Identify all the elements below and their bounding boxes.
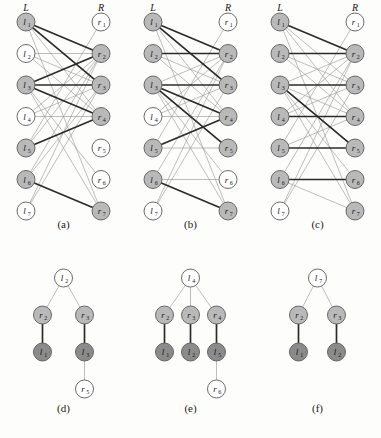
panel-a-node-l6[interactable]: l6 — [17, 171, 35, 189]
panel-b-node-r1[interactable]: r1 — [219, 13, 237, 31]
panel-d-node-r2-subscript: 2 — [44, 315, 47, 321]
panel-e-node-l5-circle — [208, 343, 226, 361]
figure-bipartite-matching: LRl1r1l2r2l3r3l4r4l5r5l6r6l7r7(a)LRl1r1l… — [0, 0, 381, 438]
panel-f-node-l2[interactable]: l2 — [328, 343, 346, 361]
panel-a-node-l4-circle — [17, 108, 35, 126]
panel-d-node-l2-subscript: 2 — [65, 278, 68, 284]
panel-e-node-l2-circle — [182, 343, 200, 361]
panel-c-node-r6[interactable]: r6 — [346, 171, 364, 189]
panel-c-node-l3[interactable]: l3 — [271, 76, 289, 94]
panel-b-node-l6-circle — [144, 171, 162, 189]
panel-b-node-r7-label: r — [225, 206, 229, 216]
panel-a-node-l3-circle — [17, 76, 35, 94]
panel-e-node-r3[interactable]: r3 — [182, 306, 200, 324]
panel-c-node-r2-label: r — [352, 49, 356, 59]
panel-a-node-r3-label: r — [98, 80, 102, 90]
panel-c-node-l6[interactable]: l6 — [271, 171, 289, 189]
panel-a-node-r2-label: r — [98, 49, 102, 59]
panel-e-node-l4-subscript: 4 — [192, 278, 195, 284]
panel-e-node-r6[interactable]: r6 — [208, 380, 226, 398]
panel-d-node-r3[interactable]: r3 — [76, 306, 94, 324]
panel-d-node-r2-label: r — [39, 310, 43, 320]
panel-f-node-l7[interactable]: l7 — [309, 269, 327, 287]
panel-f-node-r2[interactable]: r2 — [290, 306, 308, 324]
panel-c-node-l6-circle — [271, 171, 289, 189]
panel-b-node-l2[interactable]: l2 — [144, 45, 162, 63]
panel-b-node-l4[interactable]: l4 — [144, 108, 162, 126]
panel-a-node-r3[interactable]: r3 — [92, 76, 110, 94]
panel-c-node-r4[interactable]: r4 — [346, 108, 364, 126]
panel-c-node-l5[interactable]: l5 — [271, 139, 289, 157]
panel-e-node-r2[interactable]: r2 — [156, 306, 174, 324]
panel-e-node-r3-label: r — [187, 310, 191, 320]
panel-b-node-l3[interactable]: l3 — [144, 76, 162, 94]
panel-d-node-l1-circle — [34, 343, 52, 361]
panel-b-node-r3-subscript: 3 — [230, 85, 233, 91]
panel-a-node-r1[interactable]: r1 — [92, 13, 110, 31]
panel-d-node-l1[interactable]: l1 — [34, 343, 52, 361]
panel-b-edge-l1-r2 — [161, 25, 219, 50]
panel-e-node-r2-label: r — [161, 310, 165, 320]
panel-d-node-l2[interactable]: l2 — [55, 269, 73, 287]
panel-c-node-r3[interactable]: r3 — [346, 76, 364, 94]
panel-b-node-r6-label: r — [225, 175, 229, 185]
panel-e-node-l1-circle — [156, 343, 174, 361]
panel-c-node-r1[interactable]: r1 — [346, 13, 364, 31]
panel-b-node-r4-label: r — [225, 112, 229, 122]
panel-a-node-r2[interactable]: r2 — [92, 45, 110, 63]
panel-c-node-l2[interactable]: l2 — [271, 45, 289, 63]
panel-b-node-r6[interactable]: r6 — [219, 171, 237, 189]
panel-a-node-r4[interactable]: r4 — [92, 108, 110, 126]
panel-e-node-r4[interactable]: r4 — [208, 306, 226, 324]
panel-b-node-r5[interactable]: r5 — [219, 139, 237, 157]
panel-a-node-l3[interactable]: l3 — [17, 76, 35, 94]
panel-d-node-r5-subscript: 5 — [86, 389, 89, 395]
panel-a-node-r4-label: r — [98, 112, 102, 122]
panel-f-node-r2-subscript: 2 — [300, 315, 303, 321]
panel-e-node-r6-label: r — [213, 384, 217, 394]
panel-e-node-l2[interactable]: l2 — [182, 343, 200, 361]
panel-c-node-r2[interactable]: r2 — [346, 45, 364, 63]
panel-f-node-r3-label: r — [333, 310, 337, 320]
panel-b-node-r1-subscript: 1 — [230, 22, 233, 28]
panel-d-node-l3[interactable]: l3 — [76, 343, 94, 361]
panel-a-node-l4[interactable]: l4 — [17, 108, 35, 126]
panel-f-node-l1-circle — [290, 343, 308, 361]
panel-b-node-r2-label: r — [225, 49, 229, 59]
panel-e-node-l4[interactable]: l4 — [182, 269, 200, 287]
panel-a-node-r5[interactable]: r5 — [92, 139, 110, 157]
panel-b-node-l6[interactable]: l6 — [144, 171, 162, 189]
panel-f-node-r3[interactable]: r3 — [328, 306, 346, 324]
panel-d-link-root-c2 — [68, 286, 80, 307]
panel-b-node-r2[interactable]: r2 — [219, 45, 237, 63]
panel-a-node-l6-circle — [17, 171, 35, 189]
panel-f-node-l7-circle — [309, 269, 327, 287]
panel-a-caption: (a) — [0, 218, 127, 230]
panel-a-node-r6[interactable]: r6 — [92, 171, 110, 189]
panel-e-node-l1[interactable]: l1 — [156, 343, 174, 361]
panel-a-node-r5-label: r — [98, 143, 102, 153]
panel-f-body: l7r2r3l1l2 — [254, 262, 381, 386]
panel-d-node-r5[interactable]: r5 — [76, 380, 94, 398]
panel-c-node-l1[interactable]: l1 — [271, 13, 289, 31]
panel-b-node-l1[interactable]: l1 — [144, 13, 162, 31]
panel-a-node-r7-subscript: 7 — [103, 211, 106, 217]
panel-a-node-r3-subscript: 3 — [103, 85, 106, 91]
panel-c-node-r5[interactable]: r5 — [346, 139, 364, 157]
panel-a-graph: LRl1r1l2r2l3r3l4r4l5r5l6r6l7r7 — [0, 0, 127, 212]
panel-f-tree: l7r2r3l1l2 — [254, 262, 381, 386]
panel-b-node-r4[interactable]: r4 — [219, 108, 237, 126]
panel-d: l2r2r3l1l3r5(d) — [0, 262, 127, 422]
panel-e-node-r4-label: r — [213, 310, 217, 320]
panel-a-node-l5[interactable]: l5 — [17, 139, 35, 157]
panel-b-node-r3[interactable]: r3 — [219, 76, 237, 94]
panel-e-node-l5[interactable]: l5 — [208, 343, 226, 361]
panel-f-node-l1[interactable]: l1 — [290, 343, 308, 361]
panel-d-node-l3-circle — [76, 343, 94, 361]
panel-c-node-l4[interactable]: l4 — [271, 108, 289, 126]
panel-b-node-r6-subscript: 6 — [230, 180, 233, 186]
panel-b-node-l5[interactable]: l5 — [144, 139, 162, 157]
panel-a-node-l1[interactable]: l1 — [17, 13, 35, 31]
panel-d-node-r2[interactable]: r2 — [34, 306, 52, 324]
panel-a-node-l2[interactable]: l2 — [17, 45, 35, 63]
